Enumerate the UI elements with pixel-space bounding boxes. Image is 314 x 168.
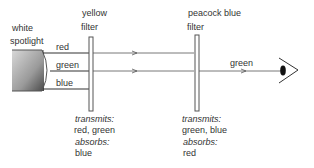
spotlight-label: white bbox=[12, 23, 33, 34]
yellow-transmits-value: red, green bbox=[74, 125, 115, 136]
arrow-icon bbox=[132, 51, 137, 73]
peacock-transmits-label: transmits: bbox=[182, 114, 221, 125]
middle-beams bbox=[93, 53, 194, 71]
yellow-absorbs-label: absorbs: bbox=[75, 137, 110, 148]
yellow-absorbs-value: blue bbox=[75, 148, 92, 159]
output-beam-label: green bbox=[230, 58, 253, 69]
spotlight-label: spotlight bbox=[10, 36, 44, 47]
yellow-transmits-label: transmits: bbox=[75, 114, 114, 125]
diagram-canvas bbox=[0, 0, 314, 168]
peacock-absorbs-value: red bbox=[183, 148, 196, 159]
peacock-filter-title: peacock blue bbox=[188, 8, 241, 19]
peacock-filter-title: filter bbox=[187, 22, 204, 33]
eye-icon bbox=[279, 58, 298, 83]
yellow-filter-title: yellow bbox=[82, 8, 107, 19]
beam-label-red: red bbox=[56, 42, 69, 53]
spotlight-icon bbox=[12, 50, 47, 91]
peacock-transmits-value: green, blue bbox=[182, 125, 227, 136]
peacock-absorbs-label: absorbs: bbox=[183, 137, 218, 148]
beam-label-blue: blue bbox=[56, 78, 73, 89]
yellow-filter bbox=[89, 37, 93, 111]
beam-label-green: green bbox=[56, 60, 79, 71]
yellow-filter-title: filter bbox=[81, 22, 98, 33]
peacock-blue-filter bbox=[195, 35, 199, 111]
